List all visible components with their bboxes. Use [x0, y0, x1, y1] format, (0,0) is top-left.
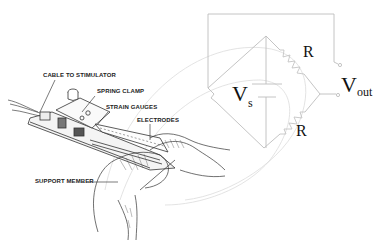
- callout-electrodes: ELECTRODES: [137, 117, 179, 123]
- resistor-bottom-label: R: [296, 122, 307, 140]
- supply-voltage-symbol: V: [232, 81, 248, 106]
- top-wire: [208, 14, 338, 88]
- callout-support-member: SUPPORT MEMBER: [35, 178, 94, 184]
- terminal-bottom: [336, 93, 339, 96]
- output-voltage-label: Vout: [341, 72, 372, 98]
- bridge-circuit: [208, 14, 342, 148]
- output-voltage-symbol: V: [341, 72, 357, 97]
- callout-strain-gauges: STRAIN GAUGES: [106, 104, 157, 110]
- diamond-lower-left: [216, 102, 264, 148]
- output-voltage-subscript: out: [357, 85, 372, 99]
- resistor-top-zigzag: [280, 50, 304, 74]
- callout-cable-to-stimulator: CABLE TO STIMULATOR: [43, 72, 116, 78]
- faint-arcs: [105, 47, 306, 205]
- illustration: [0, 0, 389, 242]
- terminal-top: [338, 63, 341, 66]
- transducer-device: [28, 89, 175, 170]
- callout-spring-clamp: SPRING CLAMP: [97, 88, 144, 94]
- supply-voltage-subscript: s: [248, 96, 253, 110]
- diamond-upper-right-a: [266, 36, 280, 50]
- diamond-upper-right-b: [304, 74, 320, 94]
- cable: [8, 100, 40, 116]
- resistor-top-label: R: [303, 43, 314, 61]
- diamond-lower-right-a: [305, 94, 320, 112]
- figure: CABLE TO STIMULATOR SPRING CLAMP STRAIN …: [0, 0, 389, 242]
- supply-voltage-label: Vs: [232, 81, 253, 107]
